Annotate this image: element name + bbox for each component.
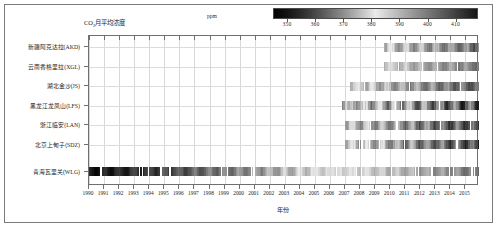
gridline-vertical xyxy=(179,36,180,184)
heatmap-strip-canvas xyxy=(345,121,479,130)
x-axis-tick-label: 2001 xyxy=(248,190,259,196)
axis-tick xyxy=(299,185,300,189)
colorbar-ticks: 350360370380390400410 xyxy=(273,19,478,32)
gridline-vertical xyxy=(270,36,271,184)
heatmap-strip-lan xyxy=(345,121,479,130)
axis-tick xyxy=(449,185,450,189)
heatmap-strip-canvas xyxy=(89,167,479,176)
gridline-vertical xyxy=(240,36,241,184)
axis-tick xyxy=(419,185,420,189)
x-axis-tick-label: 2000 xyxy=(233,190,244,196)
x-axis-tick-label: 2007 xyxy=(339,190,350,196)
axis-tick xyxy=(329,185,330,189)
axis-tick xyxy=(148,185,149,189)
axis-tick xyxy=(375,36,376,40)
axis-tick xyxy=(300,36,301,40)
axis-tick xyxy=(464,185,465,189)
axis-tick xyxy=(88,185,89,189)
x-axis-tick-label: 1994 xyxy=(143,190,154,196)
colorbar-tick-label: 380 xyxy=(367,21,376,27)
axis-tick xyxy=(194,36,195,40)
x-axis-tick-label: 2014 xyxy=(444,190,455,196)
axis-tick xyxy=(359,185,360,189)
x-axis-tick-label: 2005 xyxy=(309,190,320,196)
axis-tick xyxy=(434,185,435,189)
axis-tick xyxy=(269,185,270,189)
axis-tick xyxy=(404,185,405,189)
y-axis-ticks xyxy=(0,35,88,185)
axis-tick xyxy=(149,36,150,40)
axis-tick xyxy=(163,185,164,189)
heatmap-strip-xgl xyxy=(384,62,479,71)
axis-tick xyxy=(315,36,316,40)
colorbar-tick-label: 370 xyxy=(339,21,348,27)
axis-tick xyxy=(255,36,256,40)
axis-tick xyxy=(360,36,361,40)
x-axis-tick-label: 2003 xyxy=(278,190,289,196)
axis-tick xyxy=(164,36,165,40)
heatmap-strip-lfs xyxy=(342,101,479,110)
x-axis-tick-label: 1997 xyxy=(188,190,199,196)
colorbar-group: 350360370380390400410 xyxy=(273,8,478,32)
axis-tick xyxy=(374,185,375,189)
x-axis-tick-label: 1998 xyxy=(203,190,214,196)
x-axis-tick-label: 1990 xyxy=(83,190,94,196)
axis-tick xyxy=(103,185,104,189)
axis-tick xyxy=(405,36,406,40)
x-axis-tick-label: 2004 xyxy=(293,190,304,196)
x-axis-tick-label: 2006 xyxy=(324,190,335,196)
axis-tick xyxy=(225,36,226,40)
figure-canvas: 350360370380390400410 ppm CO2月平均浓度 新疆阿克达… xyxy=(0,0,499,230)
gridline-vertical xyxy=(149,36,150,184)
x-axis-tick-label: 2009 xyxy=(369,190,380,196)
axis-tick xyxy=(224,185,225,189)
x-axis-labels: 1990199119921993199419951996199719981999… xyxy=(88,190,478,202)
axis-tick xyxy=(420,36,421,40)
gridline-vertical xyxy=(300,36,301,184)
gridline-vertical xyxy=(330,36,331,184)
axis-tick xyxy=(118,185,119,189)
axis-tick xyxy=(330,36,331,40)
chart-title-co: CO xyxy=(84,19,93,26)
heatmap-strip-js xyxy=(350,82,480,91)
colorbar-tick-label: 390 xyxy=(395,21,404,27)
axis-tick xyxy=(193,185,194,189)
colorbar-tick-label: 410 xyxy=(451,21,460,27)
colorbar-gradient xyxy=(273,8,478,19)
x-axis-tick-label: 2010 xyxy=(384,190,395,196)
heatmap-strip-canvas xyxy=(342,101,479,110)
x-axis-tick-label: 1992 xyxy=(113,190,124,196)
x-axis-tick-label: 1991 xyxy=(98,190,109,196)
axis-tick xyxy=(210,36,211,40)
gridline-vertical xyxy=(255,36,256,184)
heatmap-strip-canvas xyxy=(384,43,479,52)
x-axis-tick-label: 2012 xyxy=(414,190,425,196)
heatmap-plot-area xyxy=(88,35,478,185)
axis-tick xyxy=(314,185,315,189)
axis-tick xyxy=(89,36,90,40)
colorbar-tick-label: 350 xyxy=(283,21,292,27)
axis-tick xyxy=(284,185,285,189)
gridline-vertical xyxy=(89,36,90,184)
gridline-vertical xyxy=(225,36,226,184)
heatmap-strip-canvas xyxy=(345,140,479,149)
axis-tick xyxy=(389,185,390,189)
x-axis-tick-label: 2015 xyxy=(459,190,470,196)
heatmap-strip-canvas xyxy=(350,82,480,91)
heatmap-strip-sdz xyxy=(345,140,479,149)
axis-tick xyxy=(254,185,255,189)
axis-tick xyxy=(285,36,286,40)
heatmap-strip-wlg xyxy=(89,167,479,176)
gridline-vertical xyxy=(119,36,120,184)
x-axis-tick-label: 2008 xyxy=(354,190,365,196)
axis-tick xyxy=(134,36,135,40)
x-axis-tick-label: 2013 xyxy=(429,190,440,196)
x-axis-tick-label: 1996 xyxy=(173,190,184,196)
axis-tick xyxy=(435,36,436,40)
colorbar-unit-label: ppm xyxy=(207,13,217,19)
x-axis-tick-label: 1999 xyxy=(218,190,229,196)
heatmap-strip-akd xyxy=(384,43,479,52)
x-axis-tick-label: 2011 xyxy=(399,190,410,196)
axis-tick xyxy=(133,185,134,189)
gridline-vertical xyxy=(285,36,286,184)
